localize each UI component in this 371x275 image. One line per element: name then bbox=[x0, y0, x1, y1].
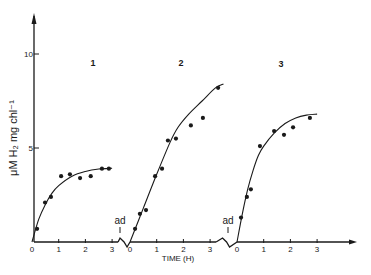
x-tick-label: 2 bbox=[83, 245, 88, 254]
data-point bbox=[245, 195, 249, 199]
x-tick-label: 0 bbox=[235, 245, 240, 254]
data-point bbox=[174, 137, 178, 141]
x-tick-label: 2 bbox=[288, 245, 293, 254]
data-point bbox=[189, 123, 193, 127]
data-point bbox=[100, 167, 104, 171]
data-point bbox=[160, 167, 164, 171]
data-point bbox=[153, 174, 157, 178]
y-tick-label: 10 bbox=[24, 50, 33, 59]
fit-curve-panel-2 bbox=[130, 84, 223, 242]
data-point bbox=[249, 187, 253, 191]
x-tick-label: 1 bbox=[154, 245, 159, 254]
fit-curve-panel-3 bbox=[237, 114, 317, 242]
data-point bbox=[68, 172, 72, 176]
x-tick-label: 3 bbox=[315, 245, 320, 254]
data-point bbox=[291, 125, 295, 129]
y-axis-label: μM H₂ mg chl⁻¹ bbox=[7, 100, 19, 176]
panel-label-3: 3 bbox=[278, 59, 283, 69]
data-point bbox=[144, 208, 148, 212]
data-point bbox=[258, 144, 262, 148]
data-point bbox=[78, 176, 82, 180]
axes: 510012301230123 bbox=[24, 13, 357, 254]
data-point bbox=[35, 227, 39, 231]
chart-canvas: 510012301230123 μM H₂ mg chl⁻¹ TIME (H) … bbox=[0, 0, 371, 275]
panel-label-1: 1 bbox=[90, 58, 95, 68]
data-point bbox=[201, 116, 205, 120]
data-points bbox=[35, 86, 312, 231]
data-point bbox=[133, 227, 137, 231]
x-tick-label: 2 bbox=[181, 245, 186, 254]
x-tick-label: 1 bbox=[261, 245, 266, 254]
y-axis-arrow-icon bbox=[32, 13, 37, 24]
x-tick-label: 0 bbox=[30, 245, 35, 254]
panel-label-2: 2 bbox=[178, 58, 183, 68]
x-tick-label: 1 bbox=[56, 245, 61, 254]
y-tick-label: 5 bbox=[29, 144, 34, 153]
x-axis-label: TIME (H) bbox=[162, 254, 195, 263]
x-tick-label: 3 bbox=[208, 245, 213, 254]
x-axis-arrow-icon bbox=[349, 240, 357, 245]
data-point bbox=[43, 200, 47, 204]
data-point bbox=[49, 195, 53, 199]
data-point bbox=[107, 167, 111, 171]
x-tick-label: 3 bbox=[110, 245, 115, 254]
data-point bbox=[308, 116, 312, 120]
ad-annotation: ad bbox=[222, 215, 233, 226]
data-point bbox=[166, 138, 170, 142]
labels: μM H₂ mg chl⁻¹ TIME (H) adad123 bbox=[7, 58, 284, 263]
data-point bbox=[89, 174, 93, 178]
fit-curves bbox=[32, 84, 317, 242]
data-point bbox=[282, 133, 286, 137]
x-tick-label: 0 bbox=[128, 245, 133, 254]
data-point bbox=[239, 215, 243, 219]
data-point bbox=[138, 212, 142, 216]
data-point bbox=[59, 174, 63, 178]
ad-annotation: ad bbox=[114, 215, 125, 226]
hydrogen-production-chart: 510012301230123 μM H₂ mg chl⁻¹ TIME (H) … bbox=[0, 0, 371, 275]
data-point bbox=[272, 129, 276, 133]
data-point bbox=[216, 86, 220, 90]
fit-curve-panel-1 bbox=[32, 168, 112, 242]
